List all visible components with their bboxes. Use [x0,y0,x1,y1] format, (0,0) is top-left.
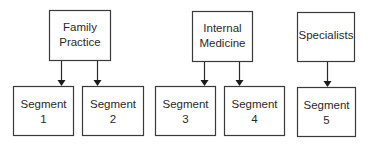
segment-2-label-line-1: Segment [90,98,137,110]
internal-medicine-box: Internal Medicine [193,12,253,62]
family-practice-label-line-1: Family [63,21,97,33]
arrow-family-practice-to-segment-1 [58,61,66,86]
segment-4-label-line-2: 4 [251,113,258,125]
segment-1-label-line-1: Segment [20,98,67,110]
segment-4-label-line-1: Segment [231,98,278,110]
arrow-internal-medicine-to-segment-4 [236,62,244,86]
segment-3-label-line-1: Segment [162,98,209,110]
segment-1-label-line-2: 1 [40,113,46,125]
segment-5-box: Segment 5 [298,88,356,137]
arrow-family-practice-to-segment-2 [94,61,102,86]
specialists-label: Specialists [299,29,354,41]
arrow-specialists-to-segment-5 [324,62,332,87]
segment-5-label-line-2: 5 [323,114,329,126]
internal-medicine-label-line-2: Medicine [199,37,245,49]
segment-2-label-line-2: 2 [110,113,116,125]
arrow-internal-medicine-to-segment-3 [201,62,209,86]
segment-3-label-line-2: 3 [182,113,188,125]
segment-5-label-line-1: Segment [303,99,350,111]
specialists-box: Specialists [298,13,355,62]
family-practice-label-line-2: Practice [59,36,101,48]
segment-2-box: Segment 2 [83,87,144,136]
segment-1-box: Segment 1 [14,87,74,136]
segment-3-box: Segment 3 [156,87,216,136]
segmentation-diagram: Family Practice Internal Medicine Specia… [0,0,371,145]
segment-4-box: Segment 4 [225,87,285,136]
internal-medicine-label-line-1: Internal [203,22,241,34]
family-practice-box: Family Practice [50,11,111,61]
